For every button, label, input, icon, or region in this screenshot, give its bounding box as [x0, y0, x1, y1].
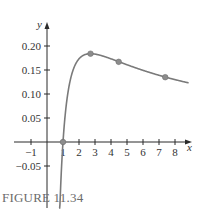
x-axis-label: x — [186, 141, 192, 153]
x-tick-label: 4 — [108, 146, 114, 158]
chart-plot-area: −0.050.050.100.150.20 −112345678 x y — [0, 0, 207, 213]
x-tick-label: 5 — [124, 146, 130, 158]
y-tick-label: 0.10 — [22, 88, 42, 100]
data-point-marker — [162, 74, 168, 80]
x-tick-label: 6 — [140, 146, 146, 158]
figure-caption: FIGURE 11.34 — [2, 190, 83, 206]
x-tick-label: 3 — [92, 146, 98, 158]
x-tick-label: 2 — [76, 146, 82, 158]
y-axis-arrow-icon — [45, 22, 50, 29]
y-tick-label: −0.05 — [16, 160, 42, 172]
x-tick-label: 8 — [172, 146, 178, 158]
y-axis-label: y — [36, 18, 42, 30]
x-tick-label: −1 — [25, 146, 37, 158]
y-tick-label: 0.15 — [22, 64, 42, 76]
data-point-marker — [116, 59, 122, 65]
marked-points — [60, 51, 168, 145]
data-point-marker — [60, 139, 66, 145]
y-tick-label: 0.05 — [22, 112, 42, 124]
x-tick-label: 7 — [156, 146, 162, 158]
function-curve — [59, 54, 189, 208]
y-tick-label: 0.20 — [22, 40, 42, 52]
data-point-marker — [88, 51, 94, 57]
